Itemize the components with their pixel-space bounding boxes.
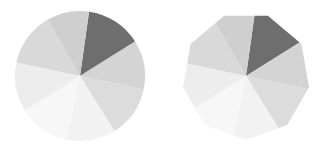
polygonal-pie-svg <box>0 0 325 150</box>
polygonal-pie-figure <box>0 0 325 150</box>
figure-canvas <box>0 0 325 150</box>
